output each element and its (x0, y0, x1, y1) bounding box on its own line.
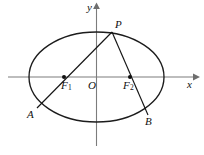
x-axis-arrowhead (193, 74, 200, 81)
point-label-a: A (27, 109, 34, 120)
point-label-f1-subscript: 1 (68, 83, 72, 92)
y-axis-arrowhead (93, 3, 100, 10)
point-label-f2: F2 (123, 80, 134, 92)
ellipse-figure: x y O P F1 F2 A B (0, 0, 204, 155)
point-label-f1-letter: F (61, 79, 68, 91)
point-label-p: P (115, 19, 122, 30)
point-label-f2-letter: F (123, 79, 130, 91)
point-label-b: B (145, 116, 152, 127)
y-axis-label: y (87, 2, 92, 13)
x-axis-label: x (187, 79, 192, 90)
origin-label: O (88, 80, 96, 91)
point-label-f2-subscript: 2 (130, 83, 134, 92)
point-label-f1: F1 (61, 80, 72, 92)
chord-pa (37, 32, 112, 108)
geometry-canvas (0, 0, 204, 155)
